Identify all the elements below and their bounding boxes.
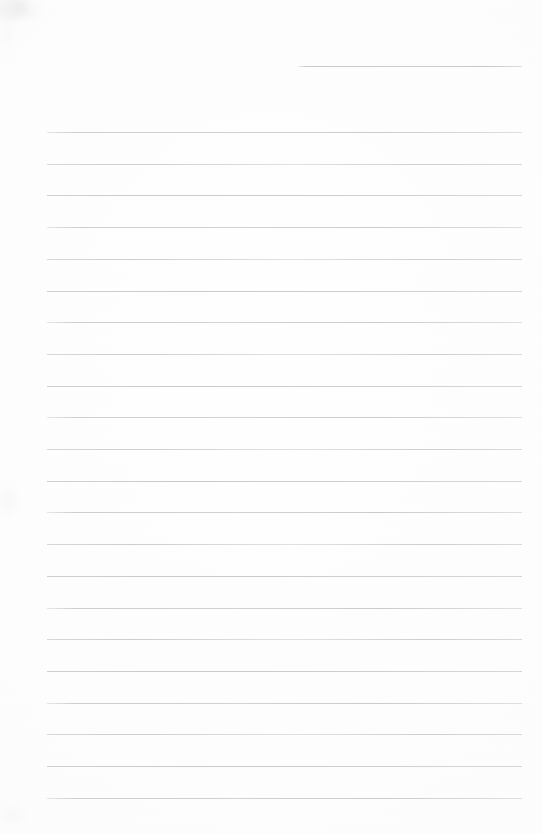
ruled-line xyxy=(47,512,522,513)
ruled-line xyxy=(47,734,522,735)
ruled-line xyxy=(47,386,522,387)
ruled-line xyxy=(47,798,522,799)
ruled-line xyxy=(47,291,522,292)
header-rule xyxy=(298,66,522,67)
ruled-line xyxy=(47,417,522,418)
ruled-line xyxy=(47,132,522,133)
ruled-line xyxy=(47,449,522,450)
ruled-line xyxy=(47,322,522,323)
scanned-page xyxy=(0,0,542,834)
ruled-line xyxy=(47,354,522,355)
ruled-line xyxy=(47,639,522,640)
ruled-line xyxy=(47,544,522,545)
ruled-line xyxy=(47,671,522,672)
ruled-line xyxy=(47,703,522,704)
ruled-line xyxy=(47,608,522,609)
ruled-line xyxy=(47,227,522,228)
ruled-line xyxy=(47,164,522,165)
ruled-line xyxy=(47,481,522,482)
ruled-line xyxy=(47,766,522,767)
ruled-line xyxy=(47,259,522,260)
ruled-line xyxy=(47,576,522,577)
ruled-line xyxy=(47,195,522,196)
